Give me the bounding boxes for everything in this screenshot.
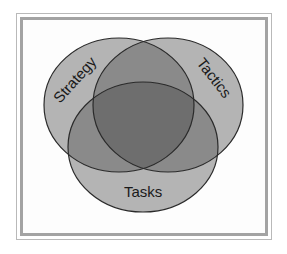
tasks-label: Tasks xyxy=(124,183,162,200)
venn-diagram: Strategy Tactics Tasks xyxy=(0,0,287,254)
